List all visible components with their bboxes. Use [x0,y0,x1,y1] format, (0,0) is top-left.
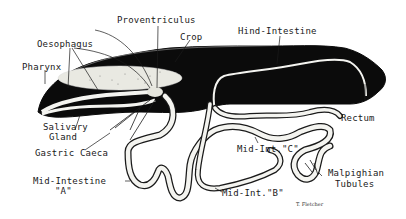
label-oesophagus: Oesophagus [37,39,93,49]
artist-signature: T. Fletcher [296,201,323,207]
label-gastric-caeca: Gastric Caeca [35,148,108,158]
label-proventriculus: Proventriculus [117,15,196,25]
label-hind-intestine: Hind-Intestine [238,26,317,36]
label-gland: Gland [49,132,77,142]
crop-organ [58,66,182,90]
label-mid-intestine-a-letter: "A" [55,186,72,196]
label-salivary: Salivary [43,122,88,132]
digestive-system-diagram: Proventriculus Crop Oesophagus Pharynx H… [0,0,406,219]
label-tubules: Tubules [335,179,374,189]
label-malpighian: Malpighian [328,168,384,178]
label-mid-int-c: Mid-Int."C" [237,144,299,154]
label-mid-int-b: Mid-Int."B" [222,188,284,198]
label-rectum: Rectum [341,113,375,123]
label-mid-intestine-a: Mid-Intestine [33,176,106,186]
label-pharynx: Pharynx [22,62,61,72]
label-crop: Crop [180,32,202,42]
proventriculus-organ [147,87,163,97]
